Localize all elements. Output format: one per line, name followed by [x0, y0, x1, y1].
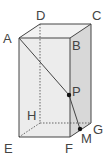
label-E: E [4, 141, 13, 156]
label-G: G [93, 122, 103, 137]
label-C: C [92, 8, 101, 23]
label-A: A [3, 31, 12, 46]
label-B: B [72, 38, 81, 53]
point-P-dot [67, 93, 71, 97]
label-D: D [36, 8, 45, 23]
label-M: M [81, 131, 92, 146]
prism-diagram: A B C D E F G H P M [0, 0, 111, 160]
label-P: P [72, 84, 81, 99]
label-H: H [27, 108, 36, 123]
label-F: F [65, 141, 73, 156]
